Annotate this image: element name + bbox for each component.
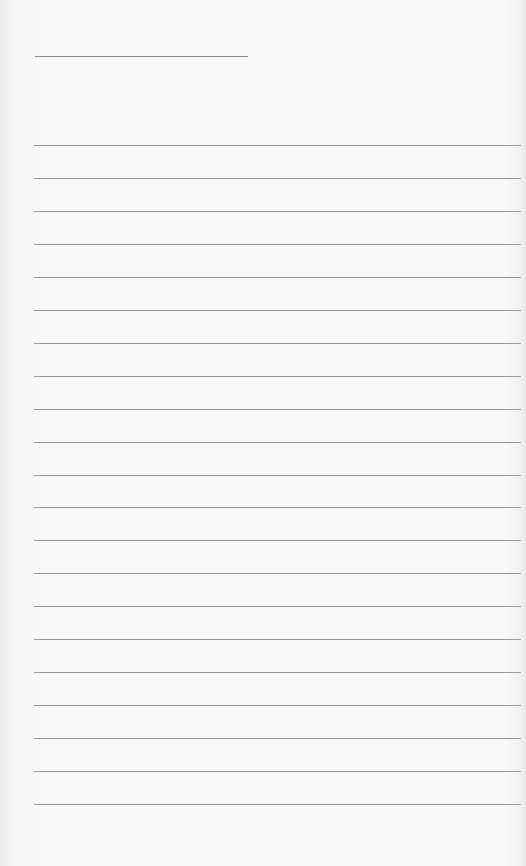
ruled-line: [34, 771, 521, 772]
ruled-line: [34, 145, 521, 146]
ruled-line: [34, 672, 521, 673]
ruled-line: [34, 277, 521, 278]
ruled-line: [34, 507, 521, 508]
ruled-line: [34, 540, 521, 541]
ruled-line: [34, 244, 521, 245]
ruled-line: [34, 475, 521, 476]
lined-paper-page: [0, 0, 526, 866]
ruled-line: [34, 442, 521, 443]
ruled-line: [34, 804, 521, 805]
ruled-line: [34, 343, 521, 344]
ruled-line: [34, 606, 521, 607]
title-line: [35, 56, 248, 57]
ruled-line: [34, 178, 521, 179]
ruled-line: [34, 705, 521, 706]
ruled-line: [34, 639, 521, 640]
ruled-line: [34, 409, 521, 410]
ruled-line: [34, 573, 521, 574]
ruled-line: [34, 310, 521, 311]
ruled-line: [34, 376, 521, 377]
ruled-line: [34, 211, 521, 212]
ruled-line: [34, 738, 521, 739]
